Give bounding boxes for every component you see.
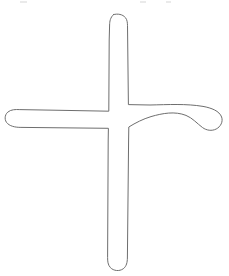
drawing-canvas: Hand-drawn outline of a cross / plus sig… [0, 0, 229, 276]
canvas-background [0, 0, 229, 276]
scan-artifact-top-right [166, 1, 171, 3]
cross-drawing-svg: Hand-drawn outline of a cross / plus sig… [0, 0, 229, 276]
scan-artifact-top-mid [140, 1, 146, 3]
scan-artifact-top-left [20, 1, 27, 3]
